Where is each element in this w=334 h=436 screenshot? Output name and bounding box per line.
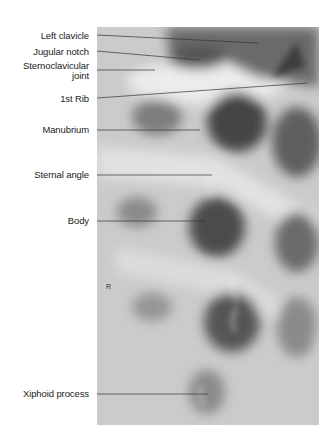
radiograph-image: [97, 27, 319, 425]
xray-shading: [97, 27, 319, 425]
label-jugular-notch: Jugular notch: [33, 47, 89, 57]
label-body: Body: [68, 216, 89, 226]
label-left-clavicle: Left clavicle: [41, 31, 89, 41]
label-first-rib: 1st Rib: [60, 94, 89, 104]
label-xiphoid-process: Xiphoid process: [23, 389, 89, 399]
label-joint: joint: [72, 71, 89, 81]
label-sternal-angle: Sternal angle: [34, 170, 89, 180]
side-marker: R: [106, 283, 112, 291]
label-manubrium: Manubrium: [42, 125, 89, 135]
